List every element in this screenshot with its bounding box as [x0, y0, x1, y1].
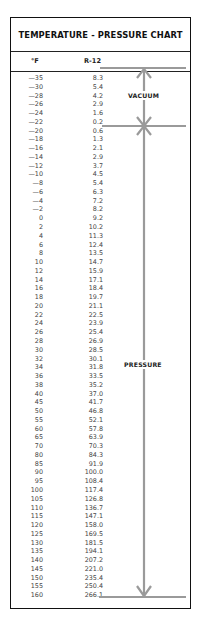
region-arrows	[0, 0, 204, 621]
pressure-label: PRESSURE	[124, 360, 162, 369]
vacuum-label: VACUUM	[128, 91, 159, 100]
